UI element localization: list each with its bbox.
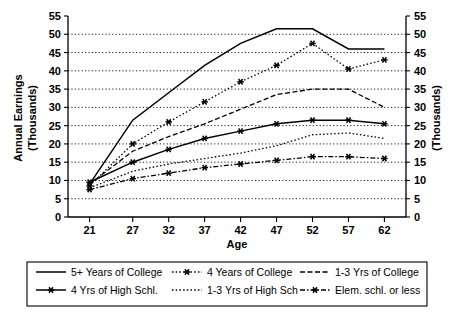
y-tick-label-right: 15 xyxy=(414,156,426,168)
series-marker xyxy=(201,165,207,170)
legend-label: 4 Yrs of High Schl. xyxy=(71,284,158,296)
legend-marker xyxy=(312,287,318,292)
x-axis-ticks: 212732374247525762 xyxy=(83,217,390,236)
series-marker xyxy=(309,154,315,159)
series-marker xyxy=(237,128,243,133)
y-tick-label-right: 45 xyxy=(414,47,426,59)
series-marker xyxy=(381,156,387,161)
series-marker xyxy=(273,63,279,68)
y-tick-label-right: 25 xyxy=(414,120,426,132)
series-1 xyxy=(86,41,387,189)
series-marker xyxy=(165,170,171,175)
series-2 xyxy=(90,89,385,184)
y-tick-label-left: 40 xyxy=(49,65,61,77)
x-tick-label: 37 xyxy=(199,224,211,236)
y-axis-right-label: (Thousands) xyxy=(430,85,442,151)
series-marker xyxy=(237,79,243,84)
series-marker xyxy=(165,119,171,124)
y-tick-label-left: 15 xyxy=(49,156,61,168)
series-marker xyxy=(309,41,315,46)
series-3 xyxy=(86,117,387,185)
x-tick-label: 47 xyxy=(270,224,282,236)
chart-legend: 5+ Years of College4 Years of College1-3… xyxy=(27,262,427,306)
series-marker xyxy=(345,154,351,159)
grid-lines xyxy=(68,34,406,198)
series-marker xyxy=(201,136,207,141)
series-marker xyxy=(130,141,136,146)
y-tick-label-right: 5 xyxy=(414,193,420,205)
y-tick-label-right: 30 xyxy=(414,101,426,113)
data-series-group xyxy=(86,29,387,193)
y-tick-label-right: 40 xyxy=(414,65,426,77)
x-tick-label: 27 xyxy=(127,224,139,236)
legend-label: 5+ Years of College xyxy=(71,266,163,278)
x-axis-label: Age xyxy=(227,238,248,250)
y-axis-label-line2: (Thousands) xyxy=(26,85,38,151)
legend-label: 4 Years of College xyxy=(207,266,292,278)
y-tick-label-left: 5 xyxy=(55,193,61,205)
dotted-swatch xyxy=(172,269,202,274)
chart-canvas: 0510152025303540455055 05101520253035404… xyxy=(0,0,452,327)
y-tick-label-right: 35 xyxy=(414,83,426,95)
chart-svg: 0510152025303540455055 05101520253035404… xyxy=(0,0,452,327)
series-marker xyxy=(309,117,315,122)
series-marker xyxy=(345,66,351,71)
y-axis-left-ticks: 0510152025303540455055 xyxy=(49,10,68,223)
y-tick-label-right: 55 xyxy=(414,10,426,22)
y-tick-label-left: 45 xyxy=(49,47,61,59)
legend-marker xyxy=(184,269,190,274)
legend-label: 1-3 Yrs of High Sch xyxy=(207,284,298,296)
legend-label: 1-3 Yrs of College xyxy=(335,266,419,278)
series-marker xyxy=(237,161,243,166)
series-line xyxy=(90,89,385,184)
y-tick-label-left: 55 xyxy=(49,10,61,22)
legend-marker xyxy=(48,287,54,292)
solid-swatch xyxy=(36,287,66,292)
x-tick-label: 57 xyxy=(342,224,354,236)
y-tick-label-left: 0 xyxy=(55,211,61,223)
y-tick-label-left: 25 xyxy=(49,120,61,132)
y-tick-label-right: 20 xyxy=(414,138,426,150)
y-tick-label-right: 10 xyxy=(414,174,426,186)
legend-entries: 5+ Years of College4 Years of College1-3… xyxy=(36,266,420,296)
y-tick-label-left: 10 xyxy=(49,174,61,186)
y-tick-label-left: 35 xyxy=(49,83,61,95)
y-axis-right-ticks: 0510152025303540455055 xyxy=(406,10,426,223)
legend-label: Elem. schl. or less xyxy=(335,284,420,296)
y-tick-label-right: 0 xyxy=(414,211,420,223)
x-tick-label: 52 xyxy=(306,224,318,236)
x-tick-label: 32 xyxy=(163,224,175,236)
series-marker xyxy=(381,57,387,62)
y-axis-label-line1: Annual Earnings xyxy=(12,74,24,161)
series-marker xyxy=(130,159,136,164)
x-tick-label: 42 xyxy=(234,224,246,236)
earnings-by-education-chart: 0510152025303540455055 05101520253035404… xyxy=(0,0,452,327)
y-tick-label-left: 30 xyxy=(49,101,61,113)
y-tick-label-right: 50 xyxy=(414,28,426,40)
x-tick-label: 62 xyxy=(378,224,390,236)
series-marker xyxy=(201,99,207,104)
y-tick-label-left: 50 xyxy=(49,28,61,40)
series-marker xyxy=(165,147,171,152)
series-marker xyxy=(345,117,351,122)
dash-dot-swatch xyxy=(300,287,330,292)
x-tick-label: 21 xyxy=(83,224,95,236)
y-tick-label-left: 20 xyxy=(49,138,61,150)
